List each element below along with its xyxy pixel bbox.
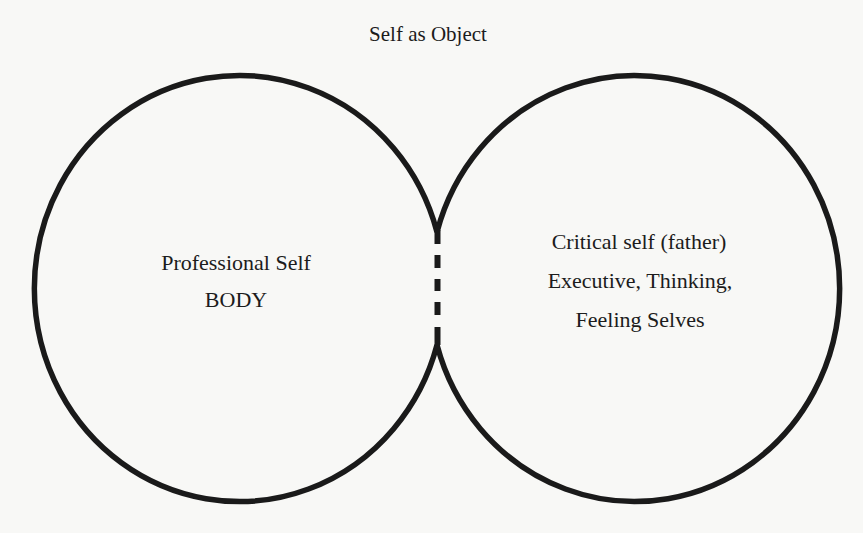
diagram-title: Self as Object xyxy=(369,24,487,45)
right-circle-label-feeling-selves: Feeling Selves xyxy=(576,309,705,331)
dashed-boundary xyxy=(435,230,441,345)
boundary-dash xyxy=(435,255,441,268)
right-circle-label-critical-self: Critical self (father) xyxy=(552,231,727,253)
self-diagram xyxy=(0,0,863,533)
boundary-dash xyxy=(435,279,441,291)
boundary-dash xyxy=(435,302,441,315)
left-circle-label-professional-self: Professional Self xyxy=(161,252,311,274)
left-circle-label-body: BODY xyxy=(205,289,267,311)
right-circle-label-executive-thinking: Executive, Thinking, xyxy=(548,270,733,292)
boundary-stub-top xyxy=(435,230,441,244)
boundary-stub-bottom xyxy=(435,327,441,345)
